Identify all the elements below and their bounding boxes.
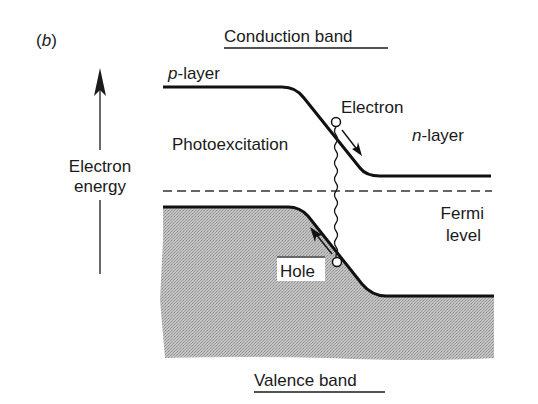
electron-circle-icon <box>332 118 341 127</box>
photoexcitation-label: Photoexcitation <box>172 135 288 154</box>
valence-band-shading <box>160 207 494 360</box>
electron-drift-arrow-icon <box>342 130 362 156</box>
fermi-label-line2: level <box>446 226 481 245</box>
conduction-band-title: Conduction band <box>224 27 353 46</box>
valence-band-title: Valence band <box>254 371 357 390</box>
axis-label-line1: Electron <box>69 157 131 176</box>
panel-label: (b) <box>36 31 57 50</box>
fermi-label-line1: Fermi <box>441 204 484 223</box>
electron-label: Electron <box>341 98 403 117</box>
axis-label-line2: energy <box>74 177 126 196</box>
hole-label: Hole <box>280 262 315 281</box>
photon-wave <box>335 127 338 257</box>
p-layer-label: p-layer <box>167 64 220 83</box>
pn-junction-band-diagram: (b) Conduction band Electron energy Hole… <box>0 0 538 404</box>
hole-circle-icon <box>333 258 342 267</box>
n-layer-label: n-layer <box>412 126 464 145</box>
